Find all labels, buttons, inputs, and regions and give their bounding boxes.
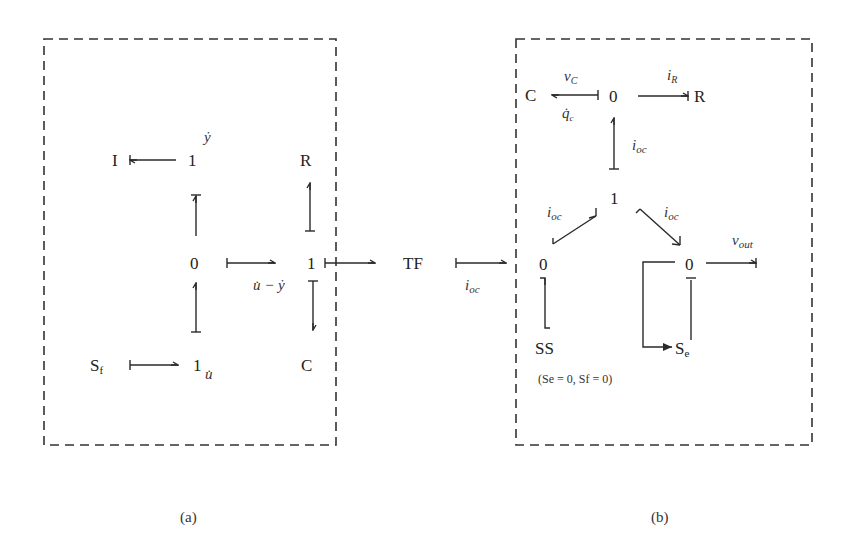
node-C-b: C — [525, 86, 536, 105]
bond-zero-to-C — [552, 90, 598, 100]
bond-one-to-TF — [325, 258, 375, 268]
bond-one-to-I — [130, 155, 176, 165]
node-one-right: 1 — [307, 254, 316, 273]
bond-Se-to-zero-right — [686, 278, 696, 340]
bond-SS-to-zero-left — [540, 278, 550, 328]
label-ioc-right: ioc — [664, 204, 679, 222]
bond-TF-to-zero — [456, 258, 506, 268]
label-vC: vC — [564, 68, 578, 86]
caption-a: (a) — [180, 509, 197, 526]
label-ydot: ẏ — [202, 129, 211, 145]
node-R-b: R — [694, 87, 706, 106]
label-ioc-left: ioc — [547, 204, 562, 222]
label-udot: u̇ — [205, 366, 213, 382]
node-Sf: Sf — [90, 356, 103, 376]
node-zero-mid: 0 — [190, 254, 199, 273]
label-qc: q̇c — [562, 105, 574, 123]
bond-Sf-to-one — [130, 360, 178, 370]
bond-one-to-zero-top — [609, 118, 619, 169]
node-SS: SS — [535, 339, 554, 358]
signal-zero-to-Se — [643, 262, 675, 347]
label-ioc-link: ioc — [465, 277, 480, 295]
node-zero-left: 0 — [539, 255, 548, 274]
bond-zero-to-R — [638, 91, 688, 101]
bond-one-to-C — [308, 281, 318, 330]
node-R-a: R — [300, 151, 312, 170]
label-iR: iR — [667, 67, 677, 85]
caption-b: (b) — [651, 509, 669, 526]
node-zero-right: 0 — [685, 255, 694, 274]
node-I: I — [112, 151, 118, 170]
label-u-minus-y: u̇ − ẏ — [253, 277, 285, 293]
node-one-mid: 1 — [610, 189, 619, 208]
label-vout: vout — [732, 232, 754, 250]
node-C-a: C — [301, 356, 312, 375]
node-one-top: 1 — [188, 151, 197, 170]
ss-note: (Se = 0, Sf = 0) — [538, 372, 612, 386]
bond-zero-to-one-right — [227, 258, 275, 268]
label-ioc-vertical: ioc — [632, 137, 647, 155]
bond-one-bottom-to-zero — [191, 283, 201, 332]
bond-one-to-R — [305, 183, 315, 231]
node-Se: Se — [675, 339, 689, 359]
panel-a-boundary — [44, 39, 336, 445]
node-zero-top: 0 — [609, 87, 618, 106]
node-one-bottom: 1 — [193, 356, 202, 375]
bond-graph-figure: I 1 ẏ R 0 1 u̇ − ẏ Sf 1 u̇ C TF ioc C vC… — [0, 0, 858, 540]
bond-zero-right-to-vout — [706, 258, 756, 268]
node-TF: TF — [403, 254, 423, 273]
bond-zero-to-one-top — [191, 195, 201, 236]
